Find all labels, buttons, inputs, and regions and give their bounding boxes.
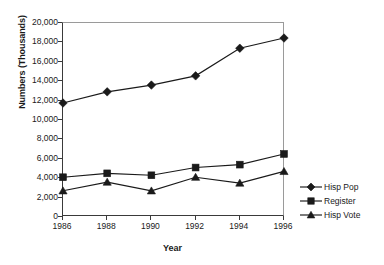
y-axis-tick-label: 18,000 xyxy=(0,37,58,46)
y-axis-tick-label: 12,000 xyxy=(0,96,58,105)
data-point-marker xyxy=(147,81,156,90)
y-axis-tick-label: 2,000 xyxy=(0,193,58,202)
y-axis-tick-label: 10,000 xyxy=(0,115,58,124)
diamond-marker-icon xyxy=(300,181,322,193)
chart-figure: Numbers (Thousands) 20,00018,00016,00014… xyxy=(0,0,384,265)
y-axis-tick-label: 6,000 xyxy=(0,154,58,163)
data-point-marker xyxy=(191,72,200,81)
data-point-marker xyxy=(192,173,200,180)
data-point-marker xyxy=(104,170,111,177)
y-axis-tick-label: 4,000 xyxy=(0,173,58,182)
data-point-marker xyxy=(236,44,245,53)
data-point-marker xyxy=(192,164,199,171)
data-point-marker xyxy=(60,174,67,181)
legend-item-label: Hisp Vote xyxy=(322,211,360,220)
x-axis-tick-label: 1986 xyxy=(39,222,85,231)
series-register xyxy=(60,151,288,181)
x-axis-tick-label: 1994 xyxy=(216,222,262,231)
legend-item-register[interactable]: Register xyxy=(300,194,384,208)
plot-area xyxy=(62,22,284,216)
x-axis-tick-label: 1992 xyxy=(172,222,218,231)
chart-legend: Hisp PopRegisterHisp Vote xyxy=(300,180,384,222)
data-point-marker xyxy=(236,161,243,168)
series-line xyxy=(63,38,284,103)
data-point-marker xyxy=(280,168,288,175)
x-axis-title: Year xyxy=(60,243,285,253)
x-axis-tick-label: 1990 xyxy=(127,222,173,231)
y-axis-tick-label: 0 xyxy=(0,212,58,221)
legend-item-hisp-vote[interactable]: Hisp Vote xyxy=(300,208,384,222)
square-marker-icon xyxy=(300,195,322,207)
y-axis-tick-label: 20,000 xyxy=(0,18,58,27)
legend-item-label: Hisp Pop xyxy=(322,183,359,192)
legend-item-hisp-pop[interactable]: Hisp Pop xyxy=(300,180,384,194)
series-line xyxy=(63,154,284,177)
y-axis-tick-label: 14,000 xyxy=(0,76,58,85)
x-axis-tick-label: 1988 xyxy=(83,222,129,231)
data-point-marker xyxy=(103,178,111,185)
y-axis-tick-label: 8,000 xyxy=(0,134,58,143)
series-hisp-pop xyxy=(59,34,289,107)
y-axis-tick-label: 16,000 xyxy=(0,57,58,66)
legend-item-label: Register xyxy=(322,197,356,206)
data-point-marker xyxy=(281,151,288,158)
data-point-marker xyxy=(103,88,112,97)
plot-series-svg xyxy=(63,23,285,217)
data-point-marker xyxy=(280,34,289,43)
triangle-marker-icon xyxy=(300,209,322,221)
x-axis-tick-label: 1996 xyxy=(260,222,306,231)
data-point-marker xyxy=(148,172,155,179)
